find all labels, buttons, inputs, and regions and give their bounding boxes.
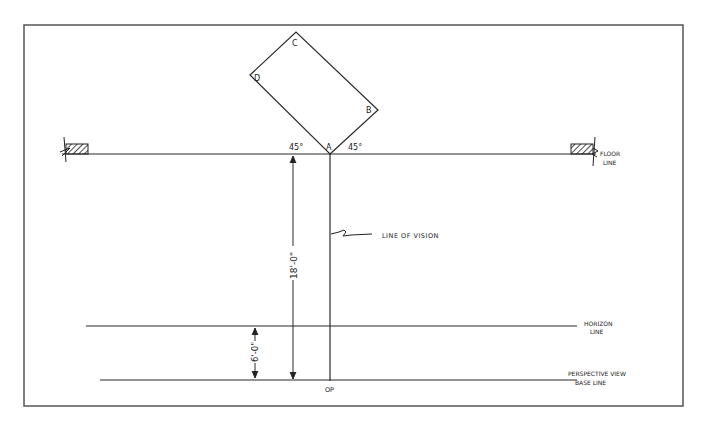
- angle-right: 45°: [348, 143, 362, 152]
- horizon-label-1: HORIZON: [584, 320, 613, 327]
- floor-line-label-2: LINE: [603, 159, 617, 166]
- base-line-label-2: BASE LINE: [575, 379, 606, 386]
- horizon-label-2: LINE: [590, 328, 604, 335]
- angle-left: 45°: [289, 143, 303, 152]
- corner-label-c: C: [292, 39, 298, 48]
- leader-arrow: [331, 230, 372, 236]
- dimension-18ft-label: 18'-0": [289, 252, 299, 279]
- corner-label-a: A: [326, 143, 332, 152]
- drawing-frame: [24, 25, 683, 406]
- floor-line-label-1: FLOOR: [600, 150, 620, 157]
- perspective-diagram: C D B A 45° 45° LINE OF VISION FLOOR LIN…: [0, 0, 705, 429]
- left-wall-section: [60, 137, 88, 162]
- line-of-vision-label: LINE OF VISION: [382, 232, 439, 240]
- op-label: OP: [325, 386, 334, 394]
- corner-label-d: D: [254, 74, 260, 83]
- base-line-label-1: PERSPECTIVE VIEW: [568, 370, 626, 377]
- dimension-6ft-label: 6'-0": [250, 342, 260, 362]
- corner-label-b: B: [366, 106, 372, 115]
- right-wall-section: [571, 137, 598, 166]
- plan-rectangle: [250, 32, 378, 154]
